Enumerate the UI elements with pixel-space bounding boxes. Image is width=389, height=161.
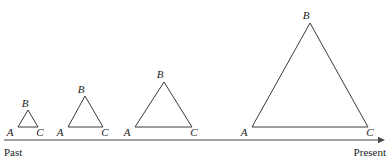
vertex-label-a: A <box>56 126 64 138</box>
arrowhead-right-icon <box>378 137 385 143</box>
triangle-group-2: A B C <box>56 83 110 138</box>
vertex-label-c: C <box>366 126 374 138</box>
triangle-shape <box>68 96 103 127</box>
triangle-growth-timeline-figure: A B C A B C A B C A B C Past Present <box>0 0 389 161</box>
vertex-label-a: A <box>6 126 14 138</box>
vertex-label-c: C <box>101 126 109 138</box>
time-axis: Past Present <box>4 137 386 158</box>
vertex-label-c: C <box>36 126 44 138</box>
axis-label-present: Present <box>354 146 386 158</box>
triangle-group-1: A B C <box>6 97 45 138</box>
triangle-shape <box>18 110 38 127</box>
vertex-label-a: A <box>240 126 248 138</box>
axis-label-past: Past <box>4 146 22 158</box>
triangle-shape <box>135 82 192 127</box>
triangle-shape <box>252 23 368 127</box>
vertex-label-c: C <box>190 126 198 138</box>
triangle-group-3: A B C <box>123 68 199 138</box>
vertex-label-a: A <box>123 126 131 138</box>
vertex-label-b: B <box>22 97 29 109</box>
vertex-label-b: B <box>157 68 164 80</box>
vertex-label-b: B <box>78 83 85 95</box>
vertex-label-b: B <box>303 9 310 21</box>
triangle-group-4: A B C <box>240 9 375 138</box>
